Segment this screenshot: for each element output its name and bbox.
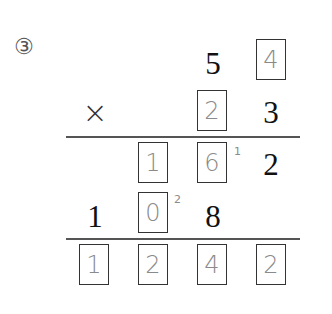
- carry-mark: 2: [174, 193, 181, 206]
- multiplier-ones-digit: 3: [255, 93, 287, 133]
- answer-box-product-hundreds[interactable]: 2: [138, 244, 168, 285]
- answer-box-product-tens[interactable]: 4: [197, 244, 227, 285]
- partial2-thousands-digit: 1: [79, 197, 111, 237]
- answer-box-partial1-hundreds[interactable]: 1: [138, 142, 168, 183]
- handwritten-digit: 4: [198, 245, 226, 284]
- handwritten-digit: 2: [198, 91, 226, 130]
- handwritten-digit: 4: [257, 40, 285, 79]
- divider-line-2: [66, 238, 300, 240]
- problem-number: ③: [14, 34, 34, 59]
- partial2-tens-digit: 8: [197, 197, 229, 237]
- multiplicand-tens-digit: 5: [197, 44, 229, 84]
- answer-box-partial1-tens[interactable]: 6: [197, 142, 227, 183]
- answer-box-multiplicand-ones[interactable]: 4: [256, 39, 286, 80]
- handwritten-digit: 2: [257, 245, 285, 284]
- handwritten-digit: 6: [198, 143, 226, 182]
- divider-line-1: [66, 136, 300, 138]
- handwritten-digit: 2: [139, 245, 167, 284]
- partial1-ones-digit: 2: [255, 145, 287, 185]
- multiply-operator: ×: [79, 93, 111, 133]
- handwritten-digit: 1: [139, 143, 167, 182]
- answer-box-multiplier-tens[interactable]: 2: [197, 90, 227, 131]
- carry-mark: 1: [234, 145, 241, 158]
- answer-box-product-ones[interactable]: 2: [256, 244, 286, 285]
- handwritten-digit: 0: [139, 193, 167, 232]
- handwritten-digit: 1: [80, 245, 108, 284]
- answer-box-product-thousands[interactable]: 1: [79, 244, 109, 285]
- answer-box-partial2-hundreds[interactable]: 0: [138, 192, 168, 233]
